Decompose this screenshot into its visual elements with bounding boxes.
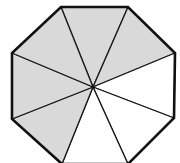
octagon-diagram bbox=[0, 0, 180, 163]
center-point bbox=[91, 85, 94, 88]
